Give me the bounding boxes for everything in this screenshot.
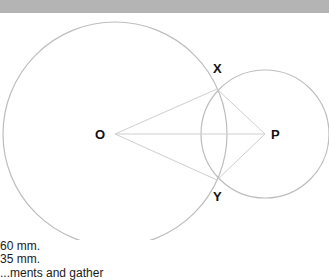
label-x: X <box>213 61 222 76</box>
label-p: P <box>271 127 280 142</box>
circles-diagram: O P X Y <box>0 0 329 240</box>
circle-o <box>3 22 227 240</box>
label-o: O <box>95 127 105 142</box>
label-y: Y <box>213 189 222 204</box>
caption-line-2: 35 mm. <box>0 253 40 266</box>
caption-line-3-clipped: ...ments and gather <box>0 267 103 280</box>
